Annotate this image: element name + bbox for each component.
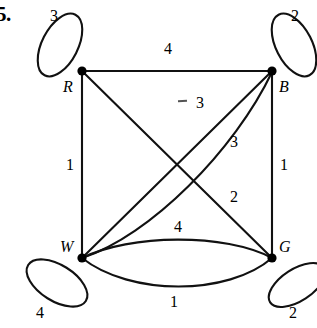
problem-number: 5. <box>0 4 11 25</box>
edge-weight-R-W: 1 <box>66 157 74 173</box>
edge-weight-B-G: 1 <box>280 157 288 173</box>
vertex-label-R: R <box>63 79 73 95</box>
edge-weight-W-G-up: 4 <box>174 219 182 235</box>
edge-weight-W-B-1: 3 <box>196 95 204 111</box>
vertex-node-G[interactable] <box>267 253 276 262</box>
vertex-label-W: W <box>60 239 73 255</box>
vertex-node-W[interactable] <box>77 253 86 262</box>
vertex-node-R[interactable] <box>77 66 86 75</box>
vertex-label-B: B <box>279 79 289 95</box>
edge-weight-W-B-2: 3 <box>230 134 238 150</box>
vertex-node-B[interactable] <box>267 66 276 75</box>
edge-W-G-curve-down <box>82 258 272 287</box>
loop-weight-G: 2 <box>289 305 297 321</box>
loop-weight-B: 2 <box>291 8 299 24</box>
vertex-label-G: G <box>279 239 291 255</box>
edge-weight-W-G-down: 1 <box>170 294 178 310</box>
edge-weight-R-B: 4 <box>164 41 172 57</box>
loop-weight-R: 3 <box>50 8 58 24</box>
loop-weight-W: 4 <box>36 305 44 321</box>
figure-canvas: 5. R B W G 3 2 4 2 4 1 1 2 3 3 4 1 <box>0 0 317 328</box>
graph-svg <box>0 0 317 328</box>
edge-W-G-curve-up <box>82 240 272 258</box>
edge-weight-R-G: 2 <box>230 189 238 205</box>
